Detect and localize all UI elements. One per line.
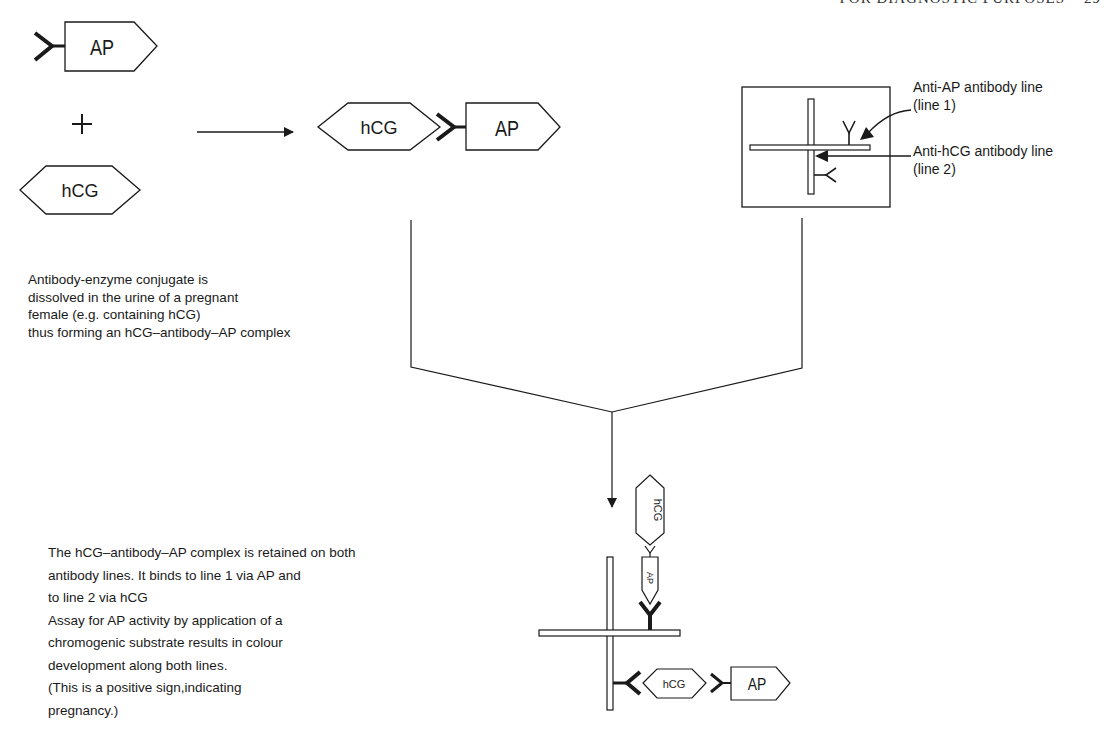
step2-line: pregnancy.) xyxy=(48,700,355,723)
step2-line: The hCG–antibody–AP complex is retained … xyxy=(48,542,355,565)
complex-bound-line2: hCG AP xyxy=(613,667,790,700)
complex-bound-line1: hCG AP xyxy=(636,475,664,630)
anti-ap-antibody-icon xyxy=(640,602,660,630)
step1-line: female (e.g. containing hCG) xyxy=(28,306,290,324)
step1-line: Antibody-enzyme conjugate is xyxy=(28,271,290,289)
antibody-icon xyxy=(711,674,731,692)
hcg-label: hCG xyxy=(61,181,98,201)
step2-line: (This is a positive sign,indicating xyxy=(48,677,355,700)
hcg-antibody-ap-complex: hCG AP xyxy=(318,103,560,150)
antibody-ap-conjugate: AP xyxy=(35,22,157,71)
antibody-icon xyxy=(645,546,655,557)
ap-label: AP xyxy=(495,116,519,140)
test-strip xyxy=(742,87,911,207)
ap-label: AP xyxy=(645,572,655,584)
ap-label: AP xyxy=(748,675,767,694)
step2-line: chromogenic substrate results in colour xyxy=(48,632,355,655)
line2-label: Anti-hCG antibody line xyxy=(913,142,1053,160)
antibody-icon xyxy=(35,33,65,60)
step1-line: dissolved in the urine of a pregnant xyxy=(28,289,290,307)
ap-label: AP xyxy=(90,35,114,59)
anti-hcg-antibody-icon xyxy=(613,672,640,694)
step2-line: Assay for AP activity by application of … xyxy=(48,610,355,633)
step1-line: thus forming an hCG–antibody–AP complex xyxy=(28,324,290,342)
line1-sublabel: (line 1) xyxy=(913,96,956,114)
hcg-label: hCG xyxy=(652,499,664,522)
anti-ap-line-bar xyxy=(539,630,680,636)
result-test-strip: hCG AP hCG AP xyxy=(539,475,790,710)
antibody-icon xyxy=(437,114,466,140)
hcg-label: hCG xyxy=(360,118,397,138)
flow-connector xyxy=(411,218,802,507)
plus-sign xyxy=(72,114,92,134)
step2-line: development along both lines. xyxy=(48,655,355,678)
hcg-molecule: hCG xyxy=(20,166,140,214)
step1-description: Antibody-enzyme conjugate is dissolved i… xyxy=(28,271,290,341)
hcg-label: hCG xyxy=(663,678,686,690)
step2-line: to line 2 via hCG xyxy=(48,587,355,610)
step2-line: antibody lines. It binds to line 1 via A… xyxy=(48,565,355,588)
anti-ap-line-bar xyxy=(750,145,870,150)
line2-sublabel: (line 2) xyxy=(913,160,956,178)
step2-description: The hCG–antibody–AP complex is retained … xyxy=(48,542,355,722)
line1-label: Anti-AP antibody line xyxy=(913,78,1043,96)
